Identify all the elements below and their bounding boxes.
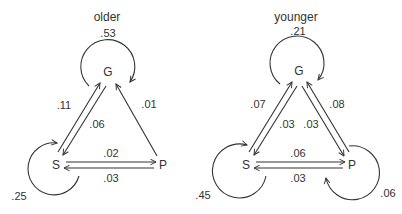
edge-s-to-g-arrow [249, 82, 292, 152]
diagram-older: older .53 G .11 .06 .01 .02 .03 S P .25 [11, 10, 167, 202]
node-p: P [159, 158, 167, 172]
edge-label-g-to-s: .06 [89, 118, 104, 130]
loop-label-s: .25 [11, 190, 26, 202]
loop-label-p: .06 [380, 187, 395, 199]
edge-label-p-to-g: .08 [329, 98, 344, 110]
edge-label-s-to-g: .07 [250, 98, 265, 110]
edge-label-p-to-g: .01 [141, 98, 156, 110]
loop-label-s: .45 [195, 189, 210, 201]
edge-label-s-to-p: .02 [103, 147, 118, 159]
node-g: G [103, 65, 112, 79]
node-s: S [52, 158, 60, 172]
edge-p-to-g-arrow [307, 82, 349, 152]
edge-p-to-g-arrow [116, 84, 157, 156]
edge-label-g-to-p: .03 [303, 118, 318, 130]
self-loop-s-arrow [212, 144, 266, 198]
self-loop-p-arrow [326, 146, 379, 200]
edge-label-s-to-p: .06 [290, 147, 305, 159]
edge-label-s-to-g: .11 [57, 99, 71, 111]
node-p: P [348, 158, 356, 172]
loop-label-g: .53 [100, 27, 115, 39]
node-g: G [294, 64, 303, 78]
transition-diagrams: older .53 G .11 .06 .01 .02 .03 S P .25 … [0, 0, 402, 214]
self-loop-g-arrow [81, 40, 135, 86]
node-s: S [242, 158, 250, 172]
diagram-title: older [94, 10, 121, 24]
diagram-title: younger [274, 10, 317, 24]
diagram-younger: younger .21 G .07 .03 .03 .08 .06 .03 S … [195, 10, 395, 201]
edge-label-p-to-s: .03 [103, 172, 118, 184]
edge-label-p-to-s: .03 [290, 172, 305, 184]
loop-label-g: .21 [290, 25, 305, 37]
edge-label-g-to-s: .03 [279, 118, 294, 130]
